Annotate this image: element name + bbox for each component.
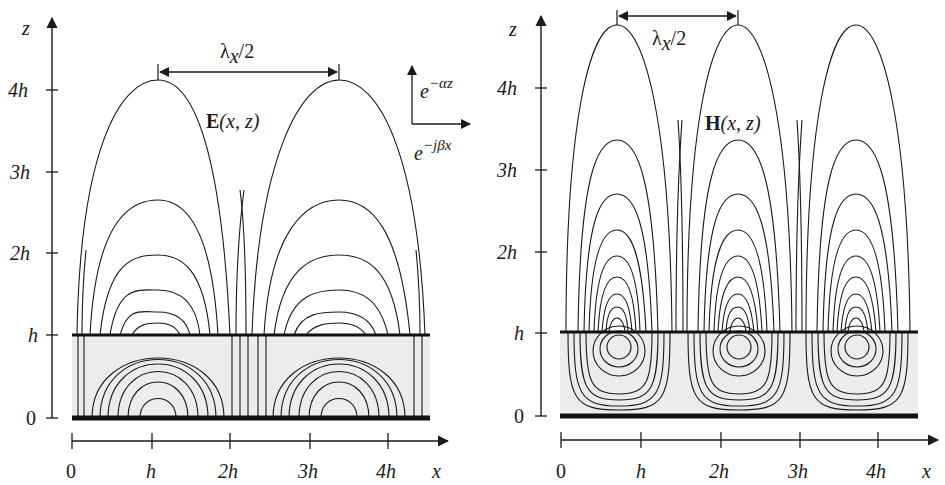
right-panel-h-field: z 0 h 2h 3h 4h 0 h 2h 3h 4h x	[496, 10, 938, 482]
decay-factor-label: e−αz	[420, 75, 453, 102]
z-tick-0: 0	[514, 405, 524, 427]
left-panel-e-field: z 0 h 2h 3h 4h 0 h 2h 3h 4h x	[8, 17, 470, 482]
z-tick-h: h	[28, 324, 38, 346]
lambda-symbol: λ	[220, 40, 230, 62]
lambda-divisor: /2	[239, 40, 255, 62]
x-tick-2h: 2h	[218, 460, 238, 482]
z-axis-label: z	[508, 18, 517, 40]
z-tick-0: 0	[26, 407, 36, 429]
x-tick-2h: 2h	[709, 460, 729, 482]
x-tick-4h: 4h	[866, 460, 886, 482]
x-tick-4h: 4h	[376, 460, 396, 482]
z-tick-2h: 2h	[497, 241, 517, 263]
lambda-symbol: λ	[652, 27, 662, 49]
x-tick-h: h	[146, 460, 156, 482]
propagation-factor-label: e−jβx	[414, 137, 452, 164]
z-tick-4h: 4h	[497, 77, 517, 99]
e-field-label: E(x, z)	[206, 110, 260, 133]
z-tick-3h: 3h	[496, 159, 517, 181]
x-tick-0: 0	[556, 460, 566, 482]
h-field-label: H(x, z)	[705, 112, 761, 135]
x-tick-h: h	[636, 460, 646, 482]
dielectric-slab	[72, 335, 430, 418]
lambda-subscript: x	[229, 45, 239, 67]
z-tick-3h: 3h	[9, 161, 30, 183]
svg-text:λx/2: λx/2	[652, 27, 686, 54]
decay-propagation-inset: e−αz e−jβx	[412, 66, 470, 164]
x-axis-label: x	[921, 460, 931, 482]
x-tick-0: 0	[66, 460, 76, 482]
lambda-subscript: x	[661, 32, 671, 54]
dielectric-slab	[560, 332, 918, 416]
half-wavelength-dimension: λx/2	[158, 40, 339, 80]
x-tick-3h: 3h	[787, 460, 808, 482]
x-axis-label: x	[431, 460, 441, 482]
z-axis-label: z	[21, 17, 30, 39]
z-tick-4h: 4h	[8, 79, 28, 101]
field-diagram: z 0 h 2h 3h 4h 0 h 2h 3h 4h x	[0, 0, 945, 485]
h-field-lines-outer	[566, 25, 910, 332]
z-tick-h: h	[514, 322, 524, 344]
svg-text:λx/2: λx/2	[220, 40, 254, 67]
half-wavelength-dimension: λx/2	[617, 10, 738, 54]
z-tick-2h: 2h	[10, 242, 30, 264]
lambda-divisor: /2	[671, 27, 687, 49]
x-tick-3h: 3h	[297, 460, 318, 482]
